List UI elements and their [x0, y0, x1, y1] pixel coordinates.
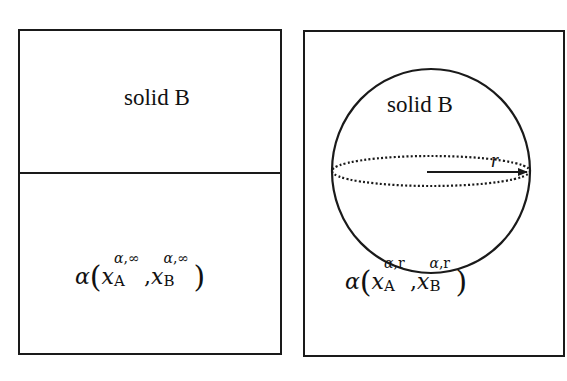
formula-func: α: [75, 264, 90, 289]
spherical-panel: solid B r α(xα,rA,xα,rB): [303, 30, 565, 357]
solid-b-label: solid B: [387, 92, 453, 118]
solid-b-label: solid B: [124, 85, 190, 111]
formula-arg2-scripts: α,∞B: [163, 264, 193, 284]
planar-interface-line: [20, 172, 280, 174]
formula-arg1-scripts: α,∞A: [114, 264, 144, 284]
sphere-diagram: [305, 32, 567, 359]
formula-arg2-scripts: α,rB: [429, 269, 455, 289]
radius-label: r: [491, 149, 499, 172]
formula-arg1-scripts: α,rA: [384, 269, 410, 289]
planar-interface-panel: solid B α(xα,∞A,xα,∞B): [18, 29, 282, 355]
formula-func: α: [345, 269, 360, 294]
spherical-formula: α(xα,rA,xα,rB): [345, 264, 467, 299]
planar-formula: α(xα,∞A,xα,∞B): [75, 259, 205, 294]
